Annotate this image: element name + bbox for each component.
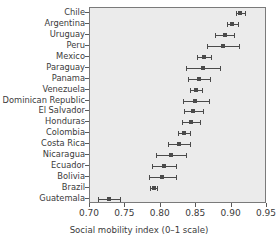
x-tick-label: 0.70: [79, 208, 99, 218]
confidence-interval-cap: [176, 175, 177, 180]
confidence-interval-cap: [190, 88, 191, 93]
category-label: Chile: [0, 8, 85, 16]
x-axis-title: Social mobility index (0–1 scale): [0, 225, 278, 235]
category-tick: [85, 132, 89, 133]
category-tick: [85, 89, 89, 90]
plot-area: [89, 7, 266, 203]
category-tick: [85, 154, 89, 155]
category-label: Nicaragua: [0, 150, 85, 158]
confidence-interval-cap: [184, 109, 185, 114]
category-label: Dominican Republic: [0, 95, 85, 103]
category-tick: [85, 12, 89, 13]
confidence-interval-cap: [202, 88, 203, 93]
confidence-interval-cap: [178, 131, 179, 136]
x-tick: [266, 203, 267, 207]
point-marker: [193, 99, 197, 103]
category-label: Brazil: [0, 183, 85, 191]
confidence-interval-cap: [98, 197, 99, 202]
confidence-interval-cap: [207, 44, 208, 49]
social-mobility-chart: ChileArgentinaUruguayPeruMexicoParaguayP…: [0, 0, 278, 244]
category-tick: [85, 165, 89, 166]
category-tick: [85, 78, 89, 79]
point-marker: [182, 131, 186, 135]
category-tick: [85, 34, 89, 35]
category-tick: [85, 23, 89, 24]
point-marker: [194, 88, 198, 92]
category-tick: [85, 100, 89, 101]
point-marker: [152, 186, 156, 190]
point-marker: [160, 175, 164, 179]
category-label: Guatemala: [0, 193, 85, 201]
point-marker: [169, 153, 173, 157]
point-marker: [197, 77, 201, 81]
confidence-interval-cap: [234, 33, 235, 38]
category-tick: [85, 67, 89, 68]
x-tick: [231, 203, 232, 207]
category-tick: [85, 56, 89, 57]
confidence-interval-cap: [186, 153, 187, 158]
category-label: Uruguay: [0, 30, 85, 38]
category-tick: [85, 187, 89, 188]
confidence-interval-cap: [210, 77, 211, 82]
category-label: Bolivia: [0, 172, 85, 180]
x-tick: [195, 203, 196, 207]
point-marker: [238, 11, 242, 15]
x-tick-label: 0.80: [150, 208, 170, 218]
confidence-interval-cap: [156, 153, 157, 158]
category-label: Honduras: [0, 117, 85, 125]
confidence-interval-cap: [227, 22, 228, 27]
confidence-interval-cap: [120, 197, 121, 202]
point-marker: [201, 66, 205, 70]
category-label: Colombia: [0, 128, 85, 136]
x-tick-label: 0.85: [185, 208, 205, 218]
confidence-interval-cap: [168, 142, 169, 147]
category-label: Ecuador: [0, 161, 85, 169]
confidence-interval-cap: [215, 33, 216, 38]
confidence-interval-cap: [190, 142, 191, 147]
x-tick-label: 0.90: [221, 208, 241, 218]
category-tick: [85, 110, 89, 111]
category-label: Paraguay: [0, 63, 85, 71]
confidence-interval-cap: [211, 55, 212, 60]
category-label: Venezuela: [0, 85, 85, 93]
point-marker: [177, 142, 181, 146]
category-tick: [85, 198, 89, 199]
category-label: Peru: [0, 41, 85, 49]
confidence-interval-cap: [190, 131, 191, 136]
confidence-interval-cap: [238, 22, 239, 27]
point-marker: [221, 44, 225, 48]
confidence-interval-cap: [152, 164, 153, 169]
confidence-interval-cap: [186, 66, 187, 71]
confidence-interval-cap: [203, 109, 204, 114]
value-axis: 0.700.750.800.850.900.95: [89, 203, 266, 204]
x-tick-label: 0.95: [256, 208, 276, 218]
confidence-interval-cap: [239, 44, 240, 49]
category-tick: [85, 176, 89, 177]
point-marker: [202, 55, 206, 59]
x-tick-label: 0.75: [114, 208, 134, 218]
confidence-interval-cap: [236, 11, 237, 16]
point-marker: [230, 22, 234, 26]
point-marker: [191, 109, 195, 113]
category-label: Argentina: [0, 19, 85, 27]
confidence-interval-cap: [176, 164, 177, 169]
confidence-interval-cap: [197, 55, 198, 60]
confidence-interval-cap: [183, 99, 184, 104]
category-axis: ChileArgentinaUruguayPeruMexicoParaguayP…: [0, 7, 85, 203]
confidence-interval-cap: [157, 186, 158, 191]
confidence-interval-cap: [245, 11, 246, 16]
confidence-interval-cap: [220, 66, 221, 71]
category-label: Costa Rica: [0, 139, 85, 147]
confidence-interval-cap: [209, 99, 210, 104]
confidence-interval-cap: [200, 120, 201, 125]
point-marker: [107, 197, 111, 201]
point-marker: [223, 33, 227, 37]
category-tick: [85, 45, 89, 46]
category-tick: [85, 143, 89, 144]
x-tick: [89, 203, 90, 207]
category-label: Mexico: [0, 52, 85, 60]
x-tick: [124, 203, 125, 207]
category-label: El Salvador: [0, 106, 85, 114]
point-marker: [189, 120, 193, 124]
x-tick: [160, 203, 161, 207]
